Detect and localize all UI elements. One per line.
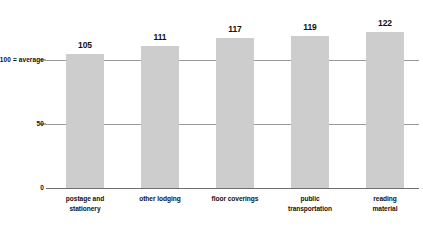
bar-category-label: public transportation — [275, 194, 345, 213]
bars-layer: 105 postage and stationery 111 other lod… — [0, 0, 423, 233]
bar-value-label: 122 — [366, 19, 404, 28]
bar-category-label: postage and stationery — [50, 194, 120, 213]
bar-group: 105 postage and stationery — [66, 54, 104, 188]
bar-value-label: 119 — [291, 23, 329, 32]
bar-category-label: floor coverings — [200, 194, 270, 204]
bar-rect — [366, 32, 404, 188]
bar-category-label-line2: material — [350, 204, 420, 214]
bar-category-label-line2: stationery — [50, 204, 120, 214]
bar-group: 111 other lodging — [141, 46, 179, 188]
bar-value-label: 105 — [66, 41, 104, 50]
bar-category-label-line2: transportation — [275, 204, 345, 214]
bar-rect — [216, 38, 254, 188]
bar-category-label-line1: postage and — [50, 194, 120, 204]
bar-rect — [141, 46, 179, 188]
bar-category-label-line1: floor coverings — [200, 194, 270, 204]
bar-category-label-line1: public — [275, 194, 345, 204]
bar-chart: 100 = average 50 0 105 postage and stati… — [0, 0, 423, 233]
bar-value-label: 111 — [141, 33, 179, 42]
bar-rect — [291, 36, 329, 188]
bar-group: 117 floor coverings — [216, 38, 254, 188]
bar-group: 122 reading material — [366, 32, 404, 188]
bar-category-label: other lodging — [125, 194, 195, 204]
bar-category-label: reading material — [350, 194, 420, 213]
bar-category-label-line1: reading — [350, 194, 420, 204]
bar-group: 119 public transportation — [291, 36, 329, 188]
bar-value-label: 117 — [216, 25, 254, 34]
bar-category-label-line1: other lodging — [125, 194, 195, 204]
bar-rect — [66, 54, 104, 188]
